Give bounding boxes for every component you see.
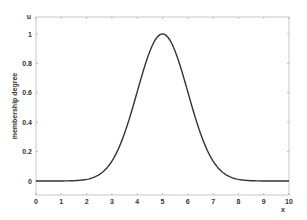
x-axis-ticks: 012345678910 [34, 17, 293, 205]
x-tick-label: 8 [236, 198, 240, 205]
membership-curve [36, 34, 289, 181]
y-axis-ticks: 00.20.40.60.81 [22, 31, 289, 185]
plot-frame [36, 17, 289, 195]
x-tick-label: 10 [285, 198, 293, 205]
x-axis-label: x [281, 206, 285, 213]
y-tick-label: 0 [28, 178, 32, 185]
corner-label: u [27, 13, 31, 20]
y-tick-label: 0.8 [22, 60, 32, 67]
membership-chart: 012345678910 00.20.40.60.81 membership d… [0, 0, 307, 220]
x-tick-label: 7 [211, 198, 215, 205]
y-axis-label: membership degree [11, 73, 19, 140]
y-tick-label: 0.2 [22, 148, 32, 155]
y-tick-label: 0.6 [22, 89, 32, 96]
y-tick-label: 0.4 [22, 119, 32, 126]
x-tick-label: 4 [135, 198, 139, 205]
x-tick-label: 6 [186, 198, 190, 205]
x-tick-label: 1 [59, 198, 63, 205]
x-tick-label: 5 [161, 198, 165, 205]
y-tick-label: 1 [28, 31, 32, 38]
x-tick-label: 3 [110, 198, 114, 205]
x-tick-label: 9 [262, 198, 266, 205]
x-tick-label: 0 [34, 198, 38, 205]
x-tick-label: 2 [85, 198, 89, 205]
